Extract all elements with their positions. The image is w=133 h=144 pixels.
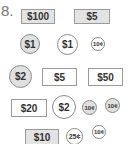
coin-10-cent: 10¢ (92, 125, 106, 139)
coin-label: 10¢ (84, 105, 94, 111)
coin-label: $1 (24, 39, 35, 50)
coin-label: 10¢ (93, 41, 103, 47)
bill-label: $50 (97, 72, 114, 83)
bill-20-dollar: $20 (11, 99, 47, 117)
bill-100-dollar: $100 (21, 9, 55, 24)
coin-label: 10¢ (94, 129, 104, 135)
coin-label: $1 (62, 39, 73, 50)
coin-10-cent-shaded: 10¢ (105, 98, 120, 113)
bill-label: $20 (21, 103, 38, 114)
problem-number: 8. (1, 2, 14, 19)
coin-10-cent-shaded: 10¢ (82, 100, 97, 115)
bill-5-dollar: $5 (42, 68, 77, 86)
bill-label: $10 (34, 132, 51, 143)
bill-5-dollar-shaded: $5 (74, 9, 110, 24)
bill-label: $5 (54, 72, 65, 83)
bill-label: $5 (86, 11, 97, 22)
coin-25-cent: 25¢ (66, 128, 83, 144)
coin-1-dollar-shaded: $1 (20, 34, 40, 54)
coin-label: 25¢ (69, 133, 81, 140)
coin-label: $2 (58, 102, 69, 113)
coin-2-dollar: $2 (52, 95, 76, 119)
bill-label: $100 (27, 11, 49, 22)
coin-1-dollar: $1 (57, 34, 78, 55)
bill-50-dollar: $50 (88, 68, 123, 86)
coin-label: $2 (15, 71, 26, 82)
bill-10-dollar-shaded: $10 (25, 129, 59, 144)
coin-2-dollar-shaded: $2 (9, 65, 32, 88)
coin-10-cent: 10¢ (91, 37, 105, 51)
coin-label: 10¢ (107, 103, 117, 109)
